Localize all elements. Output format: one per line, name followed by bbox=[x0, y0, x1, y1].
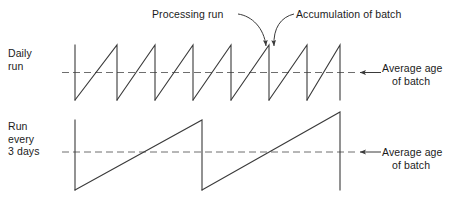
daily-run-label-line1: Daily bbox=[8, 47, 32, 59]
run-every-3-days-sawtooth bbox=[75, 112, 340, 190]
average-age-top-line1: Average age bbox=[382, 62, 442, 74]
run-every-label-line2: every bbox=[8, 133, 34, 145]
daily-run-label-line2: run bbox=[8, 60, 23, 72]
run-every-label-line3: 3 days bbox=[8, 145, 40, 157]
average-age-bottom-line2: of batch bbox=[382, 159, 442, 172]
average-age-label-bottom: Average age of batch bbox=[382, 146, 442, 171]
daily-run-chart bbox=[62, 14, 381, 100]
daily-run-label: Daily run bbox=[8, 47, 32, 72]
run-every-label-line1: Run bbox=[8, 120, 28, 132]
processing-run-annotation-label: Processing run bbox=[152, 8, 223, 21]
average-age-top-line2: of batch bbox=[382, 75, 442, 88]
accumulation-of-batch-arrow bbox=[274, 14, 294, 46]
diagram-root: Daily run Run every 3 days Processing ru… bbox=[0, 0, 451, 199]
run-every-3-days-chart bbox=[62, 112, 381, 190]
average-age-bottom-line1: Average age bbox=[382, 146, 442, 158]
processing-run-arrow bbox=[238, 14, 266, 46]
accumulation-of-batch-annotation-label: Accumulation of batch bbox=[296, 8, 401, 21]
run-every-3-days-label: Run every 3 days bbox=[8, 120, 40, 158]
average-age-label-top: Average age of batch bbox=[382, 62, 442, 87]
